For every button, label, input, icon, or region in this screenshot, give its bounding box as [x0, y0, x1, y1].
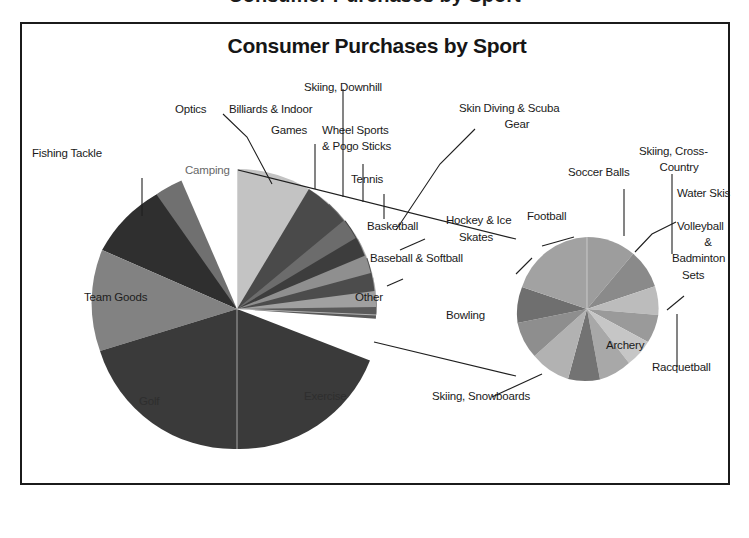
chart-frame: Consumer Purchases by Sport [20, 22, 730, 485]
label-skiing-snowboards: Skiing, Snowboards [432, 390, 530, 403]
label-golf: Golf [139, 395, 159, 408]
label-bowling: Bowling [446, 309, 485, 322]
label-archery: Archery [606, 339, 644, 352]
label-soccer-balls: Soccer Balls [568, 166, 630, 179]
main-pie [92, 169, 381, 449]
label-exercise: Exercise [304, 390, 347, 403]
label-volleyball-badminton-line2: & [677, 236, 739, 249]
label-camping: Camping [185, 164, 230, 177]
label-tennis: Tennis [351, 173, 383, 186]
label-other: Other [355, 291, 383, 304]
leader-volleyball-badminton [667, 296, 684, 310]
plot-area: Skiing, Downhill Optics Billiards & Indo… [22, 24, 732, 487]
label-billiards-indoor-games-line1: Billiards & Indoor [229, 103, 312, 116]
label-hockey-ice-skates-line1: Hockey & Ice [446, 214, 511, 227]
label-volleyball-badminton-line1: Volleyball [677, 220, 724, 233]
cropped-heading-above-chart: Consumer Purchases by Sport [0, 0, 749, 16]
secondary-pie [517, 237, 659, 381]
label-wheel-sports-line1: Wheel Sports [322, 124, 389, 137]
label-volleyball-badminton-line3: Badminton [672, 252, 725, 265]
label-skin-diving-scuba-line1: Skin Diving & Scuba [459, 102, 559, 115]
label-optics: Optics [175, 103, 206, 116]
label-wheel-sports-line2: & Pogo Sticks [322, 140, 391, 153]
label-racquetball: Racquetball [652, 361, 711, 374]
label-billiards-indoor-games-line2: Games [271, 124, 307, 137]
leader-baseball-softball [387, 279, 403, 286]
label-water-skis: Water Skis [677, 187, 730, 200]
label-skin-diving-scuba-line2: Gear [459, 118, 575, 131]
leader-basketball [400, 239, 425, 250]
label-skiing-downhill: Skiing, Downhill [278, 81, 408, 94]
label-volleyball-badminton-line4: Sets [682, 269, 704, 282]
label-team-goods: Team Goods [84, 291, 147, 304]
label-hockey-ice-skates-line2: Skates [459, 231, 493, 244]
leader-water-skis [635, 222, 676, 252]
label-skiing-cross-country-line2: Country [639, 161, 719, 174]
label-fishing-tackle: Fishing Tackle [32, 147, 102, 160]
label-basketball: Basketball [367, 220, 418, 233]
label-football: Football [527, 210, 566, 223]
label-baseball-softball: Baseball & Softball [370, 252, 463, 265]
slice-exercise[interactable] [237, 309, 370, 449]
label-skiing-cross-country-line1: Skiing, Cross- [639, 145, 708, 158]
